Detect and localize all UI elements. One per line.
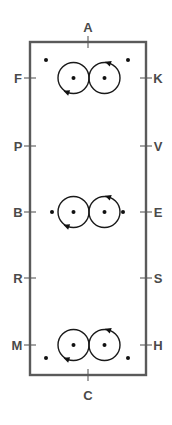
circle-pairs-group [58, 61, 120, 363]
free-dot-middle-outer-right [121, 210, 125, 214]
label-K: K [153, 71, 163, 86]
free-dot-middle-outer-left [50, 210, 54, 214]
circle-pair-top [58, 61, 120, 96]
center-dot-top-left [72, 76, 76, 80]
label-V: V [154, 139, 163, 154]
schematic-svg: A C F P B R M K V E S H [0, 0, 172, 425]
label-C: C [83, 388, 93, 403]
label-H: H [153, 338, 162, 353]
dots-group [44, 58, 130, 360]
center-dot-middle-right [103, 210, 107, 214]
label-A: A [83, 20, 93, 35]
label-S: S [154, 271, 163, 286]
free-dot-bottom-left [44, 356, 48, 360]
circle-pair-top-left-rotation-arrow-icon [63, 90, 70, 95]
circle-pair-bottom [58, 328, 120, 363]
free-dot-top-left [44, 58, 48, 62]
label-P: P [14, 139, 23, 154]
free-dot-bottom-right [126, 356, 130, 360]
circle-pair-middle-right-rotation-arrow-icon [105, 195, 112, 200]
circle-pair-middle [58, 195, 120, 230]
circle-pair-top-right-rotation-arrow-icon [105, 61, 112, 66]
diagram-canvas: A C F P B R M K V E S H [0, 0, 172, 425]
center-dot-middle-left [72, 210, 76, 214]
label-R: R [13, 271, 23, 286]
label-M: M [12, 338, 23, 353]
label-E: E [154, 205, 163, 220]
center-dot-bottom-right [103, 343, 107, 347]
circle-pair-bottom-left-rotation-arrow-icon [63, 357, 70, 362]
circle-pair-middle-left-rotation-arrow-icon [63, 224, 70, 229]
free-dot-top-right [126, 58, 130, 62]
label-F: F [14, 71, 22, 86]
label-B: B [13, 205, 22, 220]
center-dot-bottom-left [72, 343, 76, 347]
center-dot-top-right [103, 76, 107, 80]
circle-pair-bottom-right-rotation-arrow-icon [105, 328, 112, 333]
